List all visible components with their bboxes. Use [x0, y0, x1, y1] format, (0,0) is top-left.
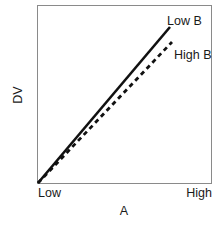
x-axis-tick-low: Low — [38, 187, 61, 200]
series-line-high-b — [38, 42, 172, 183]
chart-figure: Low B High B Low High A DV — [0, 0, 221, 227]
series-line-low-b — [38, 27, 170, 183]
series-label-low-b: Low B — [167, 15, 202, 28]
x-axis-title: A — [120, 205, 128, 218]
y-axis-title: DV — [12, 86, 25, 103]
series-label-high-b: High B — [174, 49, 212, 62]
x-axis-tick-high: High — [186, 187, 212, 200]
